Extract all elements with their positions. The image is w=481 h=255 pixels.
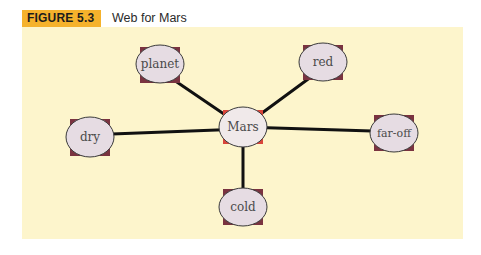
node-far-off: far-off	[370, 114, 418, 152]
node-planet: planet	[136, 45, 184, 83]
node-center-mars: Mars	[219, 107, 267, 147]
node-label: far-off	[377, 127, 412, 140]
node-red: red	[299, 43, 347, 81]
node-label: dry	[80, 130, 100, 144]
node-label: planet	[141, 57, 180, 71]
node-label: red	[313, 55, 334, 69]
node-dry: dry	[66, 117, 114, 157]
node-cold: cold	[219, 188, 267, 226]
center-label: Mars	[227, 120, 258, 134]
node-label: cold	[230, 200, 256, 214]
semantic-web-diagram: planet red dry far-off cold Mars	[0, 0, 481, 255]
